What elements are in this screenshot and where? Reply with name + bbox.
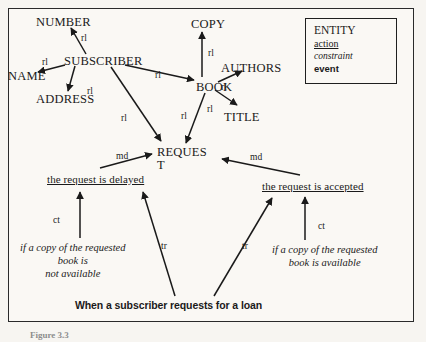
edge-label-accepted-to-request: md xyxy=(250,152,262,162)
node-accepted[interactable]: the request is accepted xyxy=(262,181,364,193)
edge-label-book-to-request: rl xyxy=(181,111,187,121)
node-delayed[interactable]: the request is delayed xyxy=(47,174,144,186)
edge-label-book-to-authors: rl xyxy=(221,82,227,92)
node-c_avail[interactable]: if a copy of the requestedbook is availa… xyxy=(272,243,377,269)
node-name[interactable]: NAME xyxy=(8,70,46,83)
edge-book-to-request xyxy=(186,93,205,143)
edge-label-subscriber-to-book: rl xyxy=(155,70,161,80)
constraint-line: book is available xyxy=(272,256,377,269)
edge-loan_event-to-delayed xyxy=(143,192,175,296)
edge-label-subscriber-to-name: rl xyxy=(42,57,48,67)
node-c_not_avail[interactable]: if a copy of the requestedbook isnot ava… xyxy=(20,241,125,280)
node-title[interactable]: TITLE xyxy=(224,111,260,124)
edge-label-loan_event-to-accepted: tr xyxy=(242,241,248,251)
node-subscriber[interactable]: SUBSCRIBER xyxy=(64,55,142,68)
node-copy[interactable]: COPY xyxy=(191,18,225,31)
node-request[interactable]: REQUES T xyxy=(157,146,207,172)
constraint-line: if a copy of the requested xyxy=(20,241,125,254)
legend-row-action: action xyxy=(314,38,396,49)
edge-label-delayed-to-request: md xyxy=(116,151,128,161)
legend-row-event: event xyxy=(314,63,396,74)
legend-box: ENTITY action constraint event xyxy=(305,18,397,84)
node-number[interactable]: NUMBER xyxy=(36,16,91,29)
edge-label-book-to-title: rl xyxy=(207,104,213,114)
legend-row-entity: ENTITY xyxy=(314,24,396,36)
edge-label-c_not_avail-to-delayed: ct xyxy=(53,215,60,225)
edge-label-c_avail-to-accepted: ct xyxy=(318,221,325,231)
node-authors[interactable]: AUTHORS xyxy=(221,62,281,75)
constraint-line: not available xyxy=(20,267,125,280)
edge-label-loan_event-to-delayed: tr xyxy=(161,241,167,251)
edge-label-subscriber-to-request: rl xyxy=(121,113,127,123)
edge-label-subscriber-to-address: rl xyxy=(87,86,93,96)
edge-subscriber-to-request xyxy=(111,67,161,141)
edge-label-subscriber-to-number: rl xyxy=(81,33,87,43)
legend-row-constraint: constraint xyxy=(314,51,396,61)
node-address[interactable]: ADDRESS xyxy=(36,93,94,106)
node-loan_event[interactable]: When a subscriber requests for a loan xyxy=(75,300,262,311)
figure-caption: Figure 3.3 xyxy=(30,330,69,340)
edge-label-book-to-copy: rl xyxy=(208,48,214,58)
constraint-line: book is xyxy=(20,254,125,267)
edge-subscriber-to-address xyxy=(68,66,75,91)
constraint-line: if a copy of the requested xyxy=(272,243,377,256)
figure-page: NUMBERSUBSCRIBERNAMEADDRESSCOPYBOOKAUTHO… xyxy=(0,0,426,342)
